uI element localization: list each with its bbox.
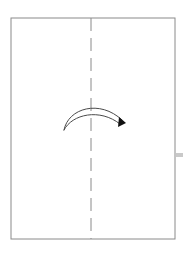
origami-fold-diagram — [0, 0, 183, 254]
right-edge-tab-marker — [176, 153, 183, 157]
diagram-svg — [0, 0, 183, 254]
paper-sheet — [11, 18, 175, 239]
